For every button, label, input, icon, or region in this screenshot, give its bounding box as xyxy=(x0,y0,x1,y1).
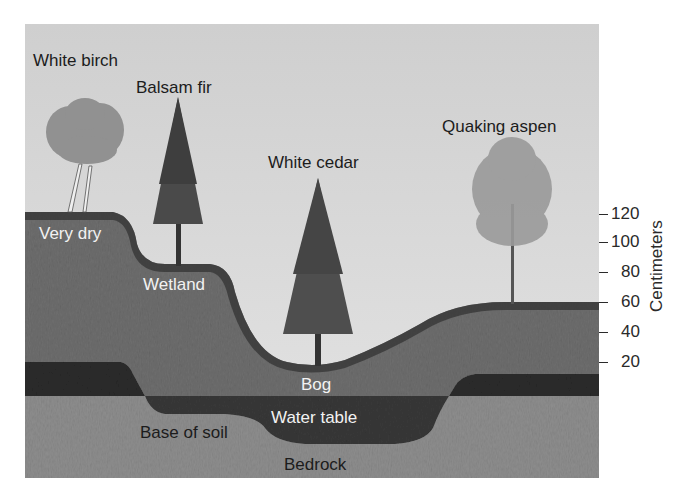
label-water-table: Water table xyxy=(271,409,357,426)
label-quaking-aspen: Quaking aspen xyxy=(442,118,556,135)
label-bedrock: Bedrock xyxy=(284,456,346,473)
label-balsam-fir: Balsam fir xyxy=(136,79,212,96)
scale-axis-title: Centimeters xyxy=(647,220,667,312)
scale-tick-120: 120 xyxy=(599,205,639,222)
label-white-birch: White birch xyxy=(33,52,118,69)
scale-tick-40: 40 xyxy=(599,323,640,340)
label-white-cedar: White cedar xyxy=(268,154,359,171)
label-very-dry: Very dry xyxy=(39,225,101,242)
label-wetland: Wetland xyxy=(143,276,205,293)
scale-tick-80: 80 xyxy=(599,263,640,280)
scale-tick-20: 20 xyxy=(599,353,640,370)
label-base-of-soil: Base of soil xyxy=(140,424,228,441)
scale-tick-60: 60 xyxy=(599,293,640,310)
label-bog: Bog xyxy=(301,376,331,393)
soil-profile-illustration: White birch Balsam fir White cedar Quaki… xyxy=(25,24,599,478)
scale-tick-100: 100 xyxy=(599,233,639,250)
